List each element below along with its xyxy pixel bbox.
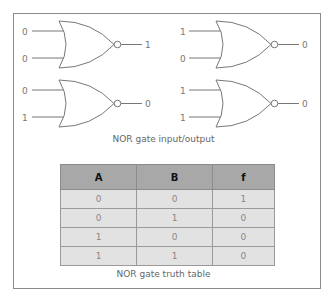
- table-row: 0 0 1: [61, 190, 275, 209]
- table-row: 0 1 0: [61, 209, 275, 228]
- header-b: B: [137, 165, 213, 190]
- gate2-output: 0: [302, 40, 308, 50]
- cell: 1: [137, 247, 213, 266]
- table-row: 1 0 0: [61, 228, 275, 247]
- gate1-output: 1: [145, 40, 151, 50]
- diagram-caption: NOR gate input/output: [0, 134, 327, 144]
- nor-gate-3: [32, 80, 142, 127]
- gate3-input-b: 1: [22, 113, 28, 123]
- gate2-input-b: 0: [180, 54, 186, 64]
- cell: 0: [137, 228, 213, 247]
- cell: 1: [61, 247, 137, 266]
- gate4-input-a: 1: [180, 86, 186, 96]
- header-f: f: [212, 165, 274, 190]
- cell: 0: [61, 190, 137, 209]
- cell: 0: [212, 228, 274, 247]
- gate3-output: 0: [145, 99, 151, 109]
- nor-gate-4: [189, 80, 299, 127]
- truth-table: A B f 0 0 1 0 1 0 1 0 0 1 1 0: [60, 164, 275, 266]
- cell: 0: [212, 247, 274, 266]
- gate2-input-a: 1: [180, 27, 186, 37]
- cell: 0: [61, 209, 137, 228]
- gate4-input-b: 1: [180, 113, 186, 123]
- cell: 0: [212, 209, 274, 228]
- table-row: 1 1 0: [61, 247, 275, 266]
- gate1-input-a: 0: [22, 27, 28, 37]
- gate4-output: 0: [302, 99, 308, 109]
- cell: 1: [61, 228, 137, 247]
- table-caption: NOR gate truth table: [0, 269, 327, 279]
- cell: 1: [137, 209, 213, 228]
- gate1-input-b: 0: [22, 54, 28, 64]
- cell: 1: [212, 190, 274, 209]
- cell: 0: [137, 190, 213, 209]
- gate3-input-a: 0: [22, 86, 28, 96]
- nor-gate-1: [32, 21, 142, 68]
- table-header-row: A B f: [61, 165, 275, 190]
- nor-gate-2: [189, 21, 299, 68]
- header-a: A: [61, 165, 137, 190]
